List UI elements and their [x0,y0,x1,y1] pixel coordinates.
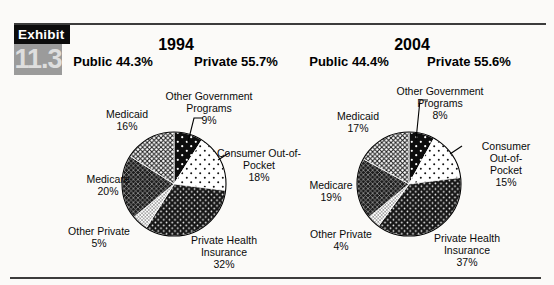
exhibit-figure: Exhibit 11.3 [0,0,554,285]
chart-title-1994: 1994 [158,36,194,54]
label-other-private-2004: Other Private 4% [310,228,372,252]
label-consumer-out-of-pocket-2004: Consumer Out-of- Pocket 15% [482,140,530,188]
leader-line-consumer-out-of-pocket-2004 [450,146,462,154]
chart-title-2004: 2004 [394,36,430,54]
label-consumer-out-of-pocket-1994: Consumer Out-of- Pocket 18% [217,147,301,183]
label-medicare-2004: Medicare 19% [309,179,352,203]
private-share-1994: Private 55.7% [194,54,278,69]
public-share-2004: Public 44.4% [309,54,388,69]
label-other-government-1994: Other Government Programs 9% [166,90,253,126]
private-share-2004: Private 55.6% [427,54,511,69]
label-medicaid-2004: Medicaid 17% [337,110,379,134]
label-medicaid-1994: Medicaid 16% [106,108,148,132]
label-private-health-insurance-2004: Private Health Insurance 37% [434,232,500,268]
label-other-government-2004: Other Government Programs 8% [397,85,484,121]
label-other-private-1994: Other Private 5% [68,225,130,249]
label-medicare-1994: Medicare 20% [86,173,129,197]
public-share-1994: Public 44.3% [73,54,152,69]
label-private-health-insurance-1994: Private Health Insurance 32% [191,234,257,270]
